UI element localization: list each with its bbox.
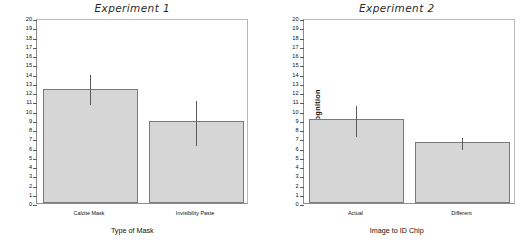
y-tick-label: 20 <box>26 17 32 23</box>
y-tick-mark <box>33 150 37 151</box>
y-tick-mark <box>33 122 37 123</box>
y-tick-mark <box>300 48 304 49</box>
y-tick-mark <box>300 113 304 114</box>
y-tick-label: 0 <box>295 202 298 208</box>
error-bar <box>90 75 91 106</box>
y-tick-label: 20 <box>292 17 298 23</box>
y-tick-label: 9 <box>295 119 298 125</box>
y-tick-mark <box>300 66 304 67</box>
y-tick-mark <box>33 29 37 30</box>
y-tick-mark <box>300 76 304 77</box>
y-tick-label: 4 <box>295 165 298 171</box>
y-tick-mark <box>33 159 37 160</box>
y-tick-mark <box>33 57 37 58</box>
y-tick-mark <box>33 20 37 21</box>
y-tick-label: 8 <box>29 128 32 134</box>
y-tick-mark <box>300 159 304 160</box>
y-tick-mark <box>33 85 37 86</box>
y-tick-mark <box>300 85 304 86</box>
y-tick-label: 0 <box>29 202 32 208</box>
y-tick-mark <box>300 122 304 123</box>
y-tick-mark <box>33 113 37 114</box>
error-bar <box>356 106 357 137</box>
error-bar <box>462 138 463 150</box>
y-tick-mark <box>300 39 304 40</box>
bar <box>43 89 138 203</box>
y-tick-mark <box>33 39 37 40</box>
y-tick-label: 17 <box>26 45 32 51</box>
panel-experiment-1: Experiment 1 Recognition 201918171615141… <box>0 0 265 245</box>
y-tick-label: 14 <box>292 73 298 79</box>
y-tick-label: 2 <box>295 184 298 190</box>
y-tick-mark <box>33 48 37 49</box>
y-tick-label: 10 <box>26 110 32 116</box>
y-tick-mark <box>300 29 304 30</box>
y-tick-mark <box>33 177 37 178</box>
y-tick-label: 6 <box>29 147 32 153</box>
y-tick-mark <box>300 20 304 21</box>
y-tick-mark <box>300 168 304 169</box>
y-tick-label: 2 <box>29 184 32 190</box>
y-tick-label: 3 <box>29 174 32 180</box>
panel-title: Experiment 1 <box>0 2 265 14</box>
y-tick-label: 1 <box>295 193 298 199</box>
plot-area-experiment-1: Recognition 2019181716151413121110987654… <box>36 19 248 204</box>
y-tick-label: 13 <box>26 82 32 88</box>
error-bar <box>196 101 197 146</box>
y-tick-label: 16 <box>292 54 298 60</box>
y-tick-label: 8 <box>295 128 298 134</box>
y-tick-mark <box>300 140 304 141</box>
y-tick-mark <box>300 94 304 95</box>
y-tick-label: 4 <box>29 165 32 171</box>
panel-experiment-2: Experiment 2 Recognition 201918171615141… <box>265 0 529 245</box>
y-tick-mark <box>33 168 37 169</box>
bar <box>415 142 510 203</box>
y-tick-label: 15 <box>26 63 32 69</box>
y-tick-label: 19 <box>292 26 298 32</box>
y-tick-label: 3 <box>295 174 298 180</box>
y-tick-mark <box>33 94 37 95</box>
y-tick-label: 7 <box>295 137 298 143</box>
x-tick-label: Calcite Mask <box>74 210 105 216</box>
y-tick-label: 9 <box>29 119 32 125</box>
y-tick-mark <box>33 187 37 188</box>
panel-title: Experiment 2 <box>265 2 529 14</box>
plot-area-experiment-2: Recognition 2019181716151413121110987654… <box>303 19 515 204</box>
y-tick-mark <box>300 196 304 197</box>
y-tick-label: 12 <box>26 91 32 97</box>
y-tick-mark <box>300 131 304 132</box>
x-tick-label: Different <box>451 210 471 216</box>
y-tick-label: 14 <box>26 73 32 79</box>
y-tick-label: 19 <box>26 26 32 32</box>
y-tick-mark <box>300 57 304 58</box>
y-tick-mark <box>33 196 37 197</box>
x-tick-label: Invisibility Paste <box>176 210 214 216</box>
figure-two-panel-bar-charts: Experiment 1 Recognition 201918171615141… <box>0 0 529 245</box>
x-axis-title: Type of Mask <box>0 226 265 235</box>
y-tick-mark <box>300 103 304 104</box>
y-tick-label: 16 <box>26 54 32 60</box>
y-tick-mark <box>300 150 304 151</box>
y-tick-label: 18 <box>26 36 32 42</box>
x-axis-title: Image to ID Chip <box>265 226 529 235</box>
y-tick-label: 10 <box>292 110 298 116</box>
y-tick-mark <box>300 187 304 188</box>
y-tick-mark <box>33 66 37 67</box>
y-tick-mark <box>33 140 37 141</box>
y-tick-mark <box>33 103 37 104</box>
y-tick-label: 11 <box>293 100 299 106</box>
y-tick-label: 13 <box>292 82 298 88</box>
y-tick-label: 15 <box>292 63 298 69</box>
y-tick-label: 18 <box>292 36 298 42</box>
y-tick-label: 5 <box>295 156 298 162</box>
y-tick-label: 11 <box>26 100 32 106</box>
y-tick-label: 7 <box>29 137 32 143</box>
y-tick-mark <box>300 205 304 206</box>
y-tick-mark <box>300 177 304 178</box>
y-tick-label: 1 <box>29 193 32 199</box>
y-tick-mark <box>33 131 37 132</box>
y-tick-label: 6 <box>295 147 298 153</box>
x-tick-label: Actual <box>348 210 363 216</box>
y-tick-label: 5 <box>29 156 32 162</box>
y-tick-label: 17 <box>292 45 298 51</box>
